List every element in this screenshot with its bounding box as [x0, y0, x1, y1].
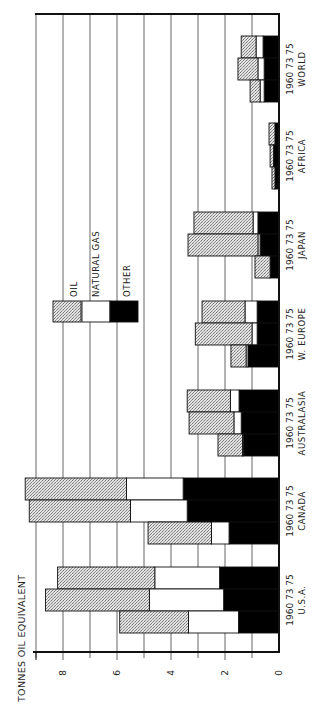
oil-segment: [120, 611, 189, 633]
natural-gas-segment: [260, 80, 264, 102]
oil-segment: [241, 36, 256, 58]
category-label: AUSTRALASIA: [297, 390, 307, 455]
oil-segment: [188, 234, 258, 256]
other-segment: [264, 80, 279, 102]
category-label: AFRICA: [297, 139, 307, 173]
other-segment: [258, 212, 279, 234]
oil-segment: [148, 522, 211, 544]
natural-gas-segment: [258, 58, 264, 80]
oil-segment: [255, 256, 270, 278]
oil-segment: [194, 212, 253, 234]
other-segment: [243, 434, 279, 456]
tick-label: 8: [58, 670, 68, 676]
legend-label: OTHER: [122, 264, 132, 297]
other-segment: [183, 478, 279, 500]
legend-swatch: [110, 301, 138, 322]
other-segment: [264, 58, 279, 80]
legend-swatch: [82, 301, 110, 322]
other-segment: [263, 36, 279, 58]
oil-segment: [187, 390, 230, 412]
other-segment: [229, 522, 279, 544]
natural-gas-segment: [245, 301, 257, 323]
tick-label: 2: [220, 670, 230, 676]
oil-segment: [250, 80, 260, 102]
other-segment: [248, 345, 279, 367]
natural-gas-segment: [212, 522, 230, 544]
oil-segment: [238, 58, 258, 80]
other-segment: [239, 390, 279, 412]
oil-segment: [218, 434, 243, 456]
other-segment: [224, 589, 279, 611]
oil-segment: [58, 567, 155, 589]
natural-gas-segment: [131, 500, 188, 522]
natural-gas-segment: [252, 323, 257, 345]
tick-label: 4: [166, 670, 176, 676]
natural-gas-segment: [230, 390, 239, 412]
natural-gas-segment: [126, 478, 183, 500]
other-segment: [270, 256, 279, 278]
category-label: WORLD: [297, 51, 307, 86]
year-labels: 1960 73 75: [285, 308, 295, 360]
energy-consumption-chart: 02468 1960 73 75U.S.A.1960 73 75CANADA19…: [0, 0, 324, 711]
other-segment: [257, 323, 279, 345]
tick-label: 6: [112, 670, 122, 676]
tick-label: 0: [274, 670, 284, 676]
legend-label: OIL: [69, 281, 79, 297]
natural-gas-segment: [253, 212, 258, 234]
year-labels: 1960 73 75: [285, 397, 295, 449]
legend: OILNATURAL GASOTHER: [53, 231, 138, 322]
natural-gas-segment: [189, 611, 239, 633]
legend-swatch: [53, 301, 81, 322]
category-label: U.S.A.: [297, 586, 307, 615]
other-segment: [260, 234, 279, 256]
oil-segment: [29, 500, 130, 522]
oil-segment: [269, 123, 275, 145]
other-segment: [220, 567, 279, 589]
natural-gas-segment: [256, 36, 263, 58]
oil-segment: [45, 589, 149, 611]
other-segment: [239, 611, 280, 633]
other-segment: [187, 500, 279, 522]
year-labels: 1960 73 75: [285, 43, 295, 95]
axis-tick-labels: 02468: [58, 670, 284, 676]
oil-segment: [272, 167, 275, 189]
oil-segment: [270, 145, 274, 167]
category-label: JAPAN: [297, 231, 307, 260]
category-labels: 1960 73 75U.S.A.1960 73 75CANADA1960 73 …: [285, 43, 307, 626]
natural-gas-segment: [149, 589, 223, 611]
legend-label: NATURAL GAS: [91, 231, 101, 297]
year-labels: 1960 73 75: [285, 130, 295, 182]
category-label: W. EUROPE: [297, 308, 307, 361]
other-segment: [257, 301, 279, 323]
other-segment: [241, 412, 279, 434]
oil-segment: [189, 412, 234, 434]
year-labels: 1960 73 75: [285, 485, 295, 537]
oil-segment: [202, 301, 245, 323]
natural-gas-segment: [155, 567, 220, 589]
natural-gas-segment: [234, 412, 241, 434]
year-labels: 1960 73 75: [285, 574, 295, 626]
oil-segment: [25, 478, 126, 500]
oil-segment: [231, 345, 246, 367]
y-axis-label: TONNES OIL EQUIVALENT: [16, 575, 27, 703]
year-labels: 1960 73 75: [285, 219, 295, 271]
oil-segment: [195, 323, 252, 345]
category-label: CANADA: [297, 491, 307, 531]
